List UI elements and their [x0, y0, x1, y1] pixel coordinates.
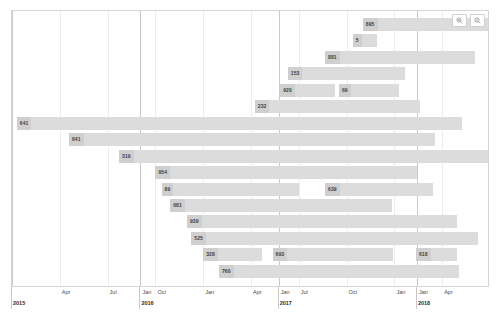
axis-year-label: 2018	[418, 300, 430, 306]
gantt-bar[interactable]: 641	[17, 117, 462, 130]
gantt-bar[interactable]: 939	[187, 215, 457, 228]
gridline-minor	[155, 11, 156, 286]
gantt-bar-label: 5	[353, 34, 362, 47]
axis-year-label: 2017	[280, 300, 292, 306]
gantt-bar[interactable]: 5	[353, 34, 377, 47]
axis-year-tick	[278, 287, 279, 309]
gantt-chart-app: 8955881153920692326418413199548963968193…	[0, 0, 497, 321]
axis-year-tick	[139, 287, 140, 309]
axis-tick-label: Jul	[110, 289, 117, 295]
gantt-bar-label: 954	[155, 166, 170, 179]
gantt-plot-area[interactable]: 8955881153920692326418413199548963968193…	[11, 10, 489, 287]
gridline-year	[140, 11, 141, 286]
gantt-bar-label: 881	[325, 51, 340, 64]
gantt-bar-label: 69	[339, 84, 351, 97]
gridline-year	[12, 11, 13, 286]
axis-tick-label: Jan	[396, 289, 405, 295]
gantt-bar[interactable]: 639	[325, 183, 433, 196]
gridline-minor	[60, 11, 61, 286]
axis-tick-label: Apr	[444, 289, 453, 295]
gantt-bar-label: 641	[17, 117, 32, 130]
gantt-bar-label: 841	[69, 133, 84, 146]
gantt-bar-label: 639	[325, 183, 340, 196]
axis-year-label: 2016	[141, 300, 153, 306]
gantt-bar-label: 895	[363, 18, 378, 31]
gantt-bar-label: 232	[255, 100, 270, 113]
gantt-bar[interactable]: 920	[280, 84, 335, 97]
gantt-bar[interactable]: 760	[219, 265, 459, 278]
gantt-bar[interactable]: 328	[203, 248, 261, 261]
gantt-bar[interactable]: 693	[273, 248, 394, 261]
axis-tick-label: Jan	[419, 289, 428, 295]
gantt-bar[interactable]: 319	[119, 150, 489, 163]
gantt-bar[interactable]: 232	[255, 100, 420, 113]
chart-toolbar	[452, 14, 485, 27]
gantt-bar[interactable]: 681	[170, 199, 392, 212]
axis-tick-label: Jan	[142, 289, 151, 295]
gantt-bar-label: 618	[416, 248, 431, 261]
axis-tick-label: Apr	[62, 289, 71, 295]
gantt-bar-label: 760	[219, 265, 234, 278]
gantt-bar-label: 153	[288, 67, 303, 80]
axis-tick-label: Jan	[281, 289, 290, 295]
zoom-in-icon[interactable]	[452, 14, 467, 27]
axis-year-tick	[416, 287, 417, 309]
gantt-bar-label: 939	[187, 215, 202, 228]
gantt-bar-label: 525	[191, 232, 206, 245]
axis-year-tick	[11, 287, 12, 309]
gantt-bar[interactable]: 881	[325, 51, 475, 64]
gantt-bar-label: 89	[162, 183, 174, 196]
gantt-bar[interactable]: 69	[339, 84, 399, 97]
axis-tick-label: Jan	[205, 289, 214, 295]
gantt-bar-label: 681	[170, 199, 185, 212]
axis-tick-label: Oct	[157, 289, 166, 295]
gantt-bar-label: 920	[280, 84, 295, 97]
gantt-bar[interactable]: 841	[69, 133, 435, 146]
gridline-minor	[108, 11, 109, 286]
gantt-bar[interactable]: 153	[288, 67, 405, 80]
zoom-out-icon[interactable]	[470, 14, 485, 27]
time-axis: AprJulOctJanAprJulOctJanApr20152016Jan20…	[11, 287, 489, 317]
gantt-bar[interactable]: 954	[155, 166, 417, 179]
axis-tick-label: Apr	[253, 289, 262, 295]
gantt-bar-label: 328	[203, 248, 218, 261]
gantt-bar-label: 319	[119, 150, 134, 163]
gantt-bar[interactable]: 89	[162, 183, 299, 196]
axis-tick-label: Jul	[301, 289, 308, 295]
gantt-bar[interactable]: 525	[191, 232, 478, 245]
axis-year-label: 2015	[13, 300, 25, 306]
axis-tick-label: Oct	[349, 289, 358, 295]
gantt-bar[interactable]: 618	[416, 248, 457, 261]
gantt-bar-label: 693	[273, 248, 288, 261]
